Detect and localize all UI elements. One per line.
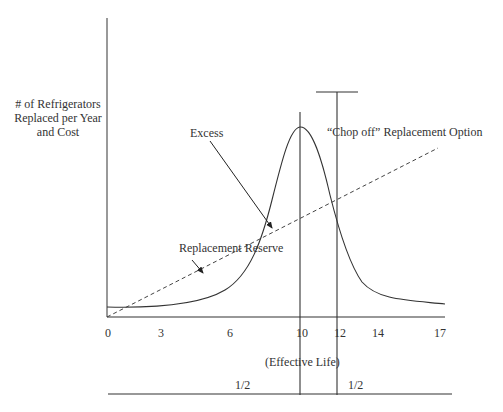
y-axis-label-line2: Replaced per Year xyxy=(10,111,106,125)
effective-life-label: (Effective Life) xyxy=(265,355,340,369)
chop-off-label: “Chop off” Replacement Option xyxy=(327,125,482,139)
x-tick-17: 17 xyxy=(434,326,446,341)
replacement-curve xyxy=(107,127,445,307)
half-right-label: 1/2 xyxy=(348,378,363,392)
x-tick-6: 6 xyxy=(227,326,233,341)
replacement-reserve-label: Replacement Reserve xyxy=(179,241,283,255)
replacement-diagram xyxy=(0,0,503,412)
x-tick-10: 10 xyxy=(296,326,308,341)
excess-label: Excess xyxy=(190,126,223,140)
x-tick-0: 0 xyxy=(105,326,111,341)
half-left-label: 1/2 xyxy=(235,378,250,392)
excess-arrow xyxy=(210,141,272,228)
x-tick-14: 14 xyxy=(372,326,384,341)
y-axis-label-line3: and Cost xyxy=(10,125,106,139)
x-tick-3: 3 xyxy=(158,326,164,341)
replacement-reserve-line xyxy=(107,148,438,317)
y-axis-label-line1: # of Refrigerators xyxy=(10,97,106,111)
y-axis-label: # of Refrigerators Replaced per Year and… xyxy=(10,97,106,139)
x-tick-12: 12 xyxy=(334,326,346,341)
